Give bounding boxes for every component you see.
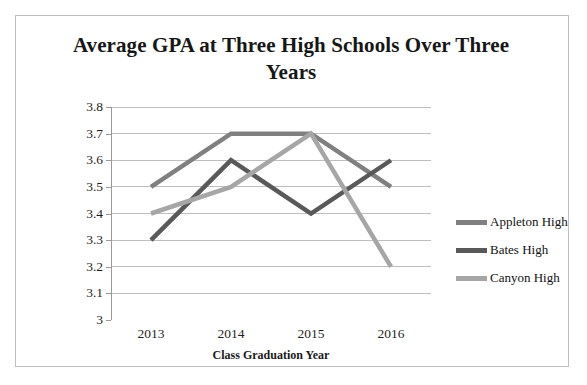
legend-item-appleton-high[interactable]: Appleton High bbox=[456, 208, 568, 236]
y-tick-label: 3.7 bbox=[63, 128, 103, 140]
y-tick-label: 3.4 bbox=[63, 208, 103, 220]
y-tick-label: 3.6 bbox=[63, 154, 103, 166]
chart-frame: Average GPA at Three High Schools Over T… bbox=[15, 15, 569, 367]
x-tick-label: 2013 bbox=[111, 326, 191, 342]
plot-area bbox=[111, 107, 431, 320]
legend-swatch-icon bbox=[456, 248, 487, 253]
chart-legend: Appleton HighBates HighCanyon High bbox=[456, 208, 568, 292]
y-tick-label: 3 bbox=[63, 314, 103, 326]
legend-swatch-icon bbox=[456, 276, 487, 281]
legend-item-bates-high[interactable]: Bates High bbox=[456, 236, 568, 264]
chart-plot-svg bbox=[111, 107, 431, 320]
legend-label: Bates High bbox=[490, 242, 548, 258]
legend-label: Appleton High bbox=[490, 214, 568, 230]
x-tick-label: 2014 bbox=[191, 326, 271, 342]
y-tick-label: 3.1 bbox=[63, 287, 103, 299]
y-tick-label: 3.5 bbox=[63, 181, 103, 193]
series-line-canyon-high bbox=[151, 134, 391, 267]
legend-item-canyon-high[interactable]: Canyon High bbox=[456, 264, 568, 292]
x-axis-title: Class Graduation Year bbox=[111, 348, 431, 363]
x-tick-label: 2015 bbox=[271, 326, 351, 342]
y-tick-label: 3.2 bbox=[63, 261, 103, 273]
y-tick-mark bbox=[106, 320, 111, 321]
y-tick-label: 3.8 bbox=[63, 101, 103, 113]
chart-title: Average GPA at Three High Schools Over T… bbox=[56, 32, 526, 86]
y-tick-label: 3.3 bbox=[63, 234, 103, 246]
legend-label: Canyon High bbox=[490, 270, 560, 286]
legend-swatch-icon bbox=[456, 220, 487, 225]
x-tick-label: 2016 bbox=[351, 326, 431, 342]
